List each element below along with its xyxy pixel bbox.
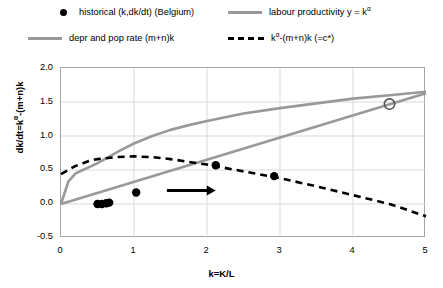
y-tick-3: 0.5 <box>25 163 53 173</box>
legend-label-historical: historical (k,dk/dt) (Belgium) <box>79 8 194 17</box>
x-tick-3: 3 <box>267 245 291 255</box>
x-tick-2: 2 <box>194 245 218 255</box>
data-point-4 <box>132 188 140 196</box>
data-point-5 <box>212 161 220 169</box>
y-tick-0: 2.0 <box>25 62 53 72</box>
y-tick-4: 0.0 <box>25 197 53 207</box>
chart-legend: historical (k,dk/dt) (Belgium) labour pr… <box>0 0 443 58</box>
x-tick-0: 0 <box>48 245 72 255</box>
y-tick-5: -0.5 <box>25 231 53 241</box>
data-point-6 <box>270 172 278 180</box>
legend-item-depr-pop-rate: depr and pop rate (m+n)k <box>28 34 174 43</box>
annotation-arrow-head-0 <box>207 185 216 195</box>
data-point-3 <box>105 198 113 206</box>
legend-dot-icon <box>60 9 67 16</box>
legend-label-depr-pop-rate: depr and pop rate (m+n)k <box>69 34 174 43</box>
x-axis-title: k=K/L <box>0 268 443 279</box>
x-tick-5: 5 <box>413 245 437 255</box>
y-axis-sup-alpha: α <box>12 116 19 120</box>
legend-line-icon-2 <box>28 37 62 40</box>
chart-root: historical (k,dk/dt) (Belgium) labour pr… <box>0 0 443 288</box>
legend-item-historical: historical (k,dk/dt) (Belgium) <box>60 8 194 17</box>
legend-sup-alpha: α <box>367 5 371 12</box>
legend-line-icon <box>228 11 262 14</box>
legend-item-net-investment: kα-(m+n)k (=c*) <box>228 34 334 43</box>
legend-label-net-investment: kα-(m+n)k (=c*) <box>271 34 334 43</box>
y-axis-title: dk/dt=kα-(m+n)k <box>14 53 25 183</box>
y-tick-2: 1.0 <box>25 130 53 140</box>
plot-canvas <box>60 67 427 239</box>
plot-area <box>60 67 425 237</box>
legend-dash-icon <box>228 37 264 40</box>
legend-item-labour-productivity: labour productivity y = kα <box>228 8 371 17</box>
x-tick-1: 1 <box>121 245 145 255</box>
legend-label-labour-productivity: labour productivity y = kα <box>269 8 371 17</box>
y-tick-1: 1.5 <box>25 96 53 106</box>
x-tick-4: 4 <box>340 245 364 255</box>
series-line-1 <box>61 93 426 204</box>
